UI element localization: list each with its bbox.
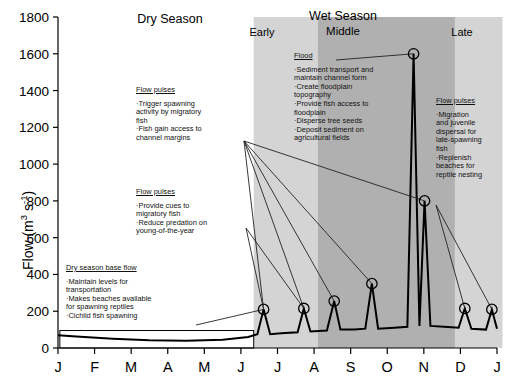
x-tick-label: D xyxy=(455,359,465,375)
x-tick-label: O xyxy=(382,359,393,375)
season-label-middle: Middle xyxy=(293,25,393,37)
y-axis-label-paren: ) xyxy=(20,191,36,196)
annotation-heading: Dry season base flow xyxy=(66,264,196,273)
y-tick-label: 1800 xyxy=(19,10,49,25)
season-label-late: Late xyxy=(440,26,484,38)
annotation-bullet: young-of-the-year xyxy=(136,227,246,236)
x-tick-label: F xyxy=(90,359,99,375)
annotation-heading: Flow pulses xyxy=(436,97,502,106)
annotation-flood: Flood ·Sediment transport and maintain c… xyxy=(294,52,406,143)
annotation-heading: Flood xyxy=(294,52,406,61)
x-tick-label: A xyxy=(309,359,319,375)
annotation-flow-pulses-late: Flow pulses ·Migration and juvenile disp… xyxy=(436,97,502,179)
x-tick-label: J xyxy=(274,359,281,375)
y-axis-label-exp-neg1: -1 xyxy=(18,196,29,204)
x-tick-label: N xyxy=(419,359,429,375)
y-axis-label-main: Flow (m xyxy=(20,220,36,270)
annotation-bullet: ·Cichlid fish spawning xyxy=(66,312,196,321)
annotation-heading: Flow pulses xyxy=(136,188,246,197)
y-tick-label: 1400 xyxy=(19,84,49,99)
x-tick-label: J xyxy=(493,359,500,375)
season-label-dry: Dry Season xyxy=(110,12,230,26)
x-tick-label: J xyxy=(237,359,244,375)
annotation-bullet: agricultural fields xyxy=(294,134,406,143)
x-tick-label: J xyxy=(54,359,61,375)
y-tick-label: 1200 xyxy=(19,120,49,135)
annotation-leader-line xyxy=(196,309,264,325)
plot-canvas: 020040060080010001200140016001800JFMAMJJ… xyxy=(0,0,505,389)
y-axis-label: Flow (m3 s-1) xyxy=(18,191,36,270)
season-label-early: Early xyxy=(238,26,286,38)
annotation-bullet: channel margins xyxy=(136,134,244,143)
x-tick-label: M xyxy=(125,359,137,375)
y-axis-label-exp-3: 3 xyxy=(18,215,29,220)
figure-hydrograph: Flow (m3 s-1) 02004006008001000120014001… xyxy=(0,0,505,389)
annotation-dry-season-base-flow: Dry season base flow ·Maintain levels fo… xyxy=(66,264,196,321)
x-tick-label: A xyxy=(163,359,173,375)
y-tick-label: 1600 xyxy=(19,47,49,62)
annotation-bullet: activity by migratory xyxy=(136,108,244,117)
x-tick-label: M xyxy=(198,359,210,375)
y-tick-label: 200 xyxy=(26,304,49,319)
y-axis-label-s: s xyxy=(20,204,36,215)
annotation-flow-pulses-dry-upper: Flow pulses ·Trigger spawning activity b… xyxy=(136,86,244,143)
annotation-flow-pulses-dry-lower: Flow pulses ·Provide cues to migratory f… xyxy=(136,188,246,236)
x-tick-label: S xyxy=(346,359,356,375)
y-tick-label: 0 xyxy=(41,341,49,356)
y-tick-label: 1000 xyxy=(19,157,49,172)
annotation-bullet: reptile nesting xyxy=(436,171,502,180)
annotation-heading: Flow pulses xyxy=(136,86,244,95)
season-label-wet: Wet Season xyxy=(288,9,398,23)
